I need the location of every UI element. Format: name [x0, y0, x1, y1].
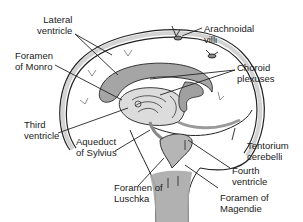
label-foramen-of-magendie: Foramen of Magendie — [220, 192, 269, 214]
label-line: Tentorium — [247, 140, 289, 151]
label-line: cerebelli — [247, 151, 289, 162]
label-line: plexuses — [237, 73, 275, 84]
label-foramen-of-luschka: Foramen of Luschka — [114, 182, 163, 204]
label-aqueduct-of-sylvius: Aqueduct of Sylvius — [76, 136, 117, 158]
label-line: ventricle — [232, 176, 267, 187]
label-arachnoidal-villi: Arachnoidal villi — [204, 23, 254, 45]
label-line: ventricle — [24, 130, 59, 141]
fourth-ventricle-shape — [160, 134, 192, 168]
label-line: Foramen of — [220, 192, 269, 203]
label-line: Lateral — [37, 14, 72, 25]
label-line: ventricle — [37, 25, 72, 36]
label-foramen-of-monro: Foramen of Monro — [15, 50, 53, 72]
label-line: Fourth — [232, 165, 267, 176]
label-line: villi — [204, 34, 254, 45]
tentorium-band — [178, 120, 240, 128]
label-line: Third — [24, 119, 59, 130]
label-line: Choroid — [237, 62, 275, 73]
label-third-ventricle: Third ventricle — [24, 119, 59, 141]
third-ventricle-shape — [119, 88, 184, 126]
label-line: Magendie — [220, 203, 269, 214]
label-fourth-ventricle: Fourth ventricle — [232, 165, 267, 187]
label-line: Foramen — [15, 50, 53, 61]
label-line: of Monro — [15, 61, 53, 72]
label-lateral-ventricle: Lateral ventricle — [37, 14, 72, 36]
label-line: of Sylvius — [76, 147, 117, 158]
posterior-ventricle-blob — [179, 82, 204, 112]
label-line: Aqueduct — [76, 136, 117, 147]
label-tentorium-cerebelli: Tentorium cerebelli — [247, 140, 289, 162]
label-line: Arachnoidal — [204, 23, 254, 34]
label-line: Luschka — [114, 193, 163, 204]
label-line: Foramen of — [114, 182, 163, 193]
label-choroid-plexuses: Choroid plexuses — [237, 62, 275, 84]
